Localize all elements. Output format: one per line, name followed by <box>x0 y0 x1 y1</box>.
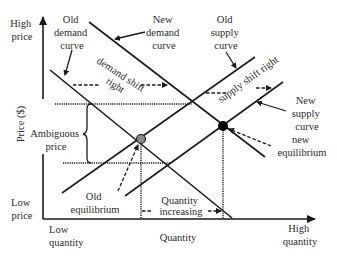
ambiguous-price-label: Ambiguous price <box>30 128 82 152</box>
old-demand-label: Old demand curve <box>54 14 90 51</box>
new-supply-pointer-arrow <box>257 102 286 111</box>
new-supply-label: New supply curve <box>292 95 323 132</box>
old-supply-label: Old supply curve <box>211 14 242 51</box>
y-high-label: High price <box>10 18 34 42</box>
x-high-label: High quantity <box>283 223 318 247</box>
new-equilibrium-dot <box>218 121 228 131</box>
old-supply-pointer-arrow <box>226 52 236 68</box>
y-axis-title: Price ($) <box>15 105 27 142</box>
old-equilibrium-label: Old equilibrium <box>71 191 120 215</box>
x-low-label: Low quantity <box>49 224 84 248</box>
quantity-increasing-label: Quantity increasing <box>159 195 203 217</box>
x-axis-title: Quantity <box>160 232 197 243</box>
new-supply-curve <box>125 82 283 196</box>
new-demand-label: New demand curve <box>146 14 182 51</box>
ambiguous-price-brace <box>83 104 91 163</box>
old-demand-pointer-arrow <box>65 50 72 75</box>
new-demand-pointer-arrow <box>115 32 145 39</box>
new-equilibrium-pointer-arrow <box>229 129 271 146</box>
demand-shift-label: demand shift right <box>88 55 148 105</box>
new-equilibrium-label: new equilibrium <box>278 134 327 158</box>
y-low-label: Low price <box>11 197 33 221</box>
old-equilibrium-dot <box>137 135 146 144</box>
supply-demand-diagram: High price Low price Price ($) Low quant… <box>0 0 337 261</box>
